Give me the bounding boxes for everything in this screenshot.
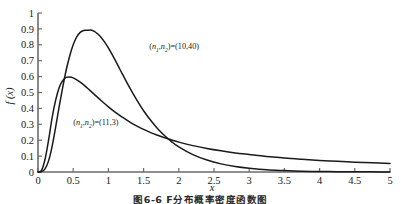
f-distribution-chart: 00.10.20.30.40.50.60.70.80.91 00.511.522…: [0, 0, 401, 204]
x-tick-label: 3: [247, 175, 252, 186]
x-tick-label: 1: [106, 175, 111, 186]
x-tick-label: 4: [317, 175, 323, 186]
y-tick-label: 0.8: [21, 39, 34, 50]
y-axis-label: f (x): [4, 87, 16, 105]
x-tick-label: 0.5: [67, 175, 80, 186]
y-tick-label: 0.7: [21, 55, 34, 66]
x-tick-label: 3.5: [278, 175, 291, 186]
x-tick-label: 0: [35, 175, 40, 186]
y-tick-label: 0.3: [21, 119, 34, 130]
y-tick-label: 0.1: [21, 151, 34, 162]
y-tick-label: 0.2: [21, 135, 34, 146]
y-axis-tick-labels: 00.10.20.30.40.50.60.70.80.91: [21, 8, 35, 178]
x-tick-label: 1.5: [137, 175, 150, 186]
x-axis-label: x: [209, 182, 215, 193]
y-tick-label: 1: [29, 8, 34, 19]
y-tick-label: 0.9: [21, 24, 34, 35]
figure-caption: 图6-6 F分布概率密度函数图: [0, 193, 401, 204]
x-tick-label: 2: [176, 175, 181, 186]
y-tick-label: 0.5: [21, 87, 34, 98]
x-tick-label: 4.5: [348, 175, 361, 186]
figure-container: 00.10.20.30.40.50.60.70.80.91 00.511.522…: [0, 0, 401, 204]
x-tick-label: 5: [387, 175, 392, 186]
y-tick-label: 0.6: [21, 71, 34, 82]
y-tick-label: 0.4: [21, 103, 35, 114]
y-tick-label: 0: [29, 167, 34, 178]
